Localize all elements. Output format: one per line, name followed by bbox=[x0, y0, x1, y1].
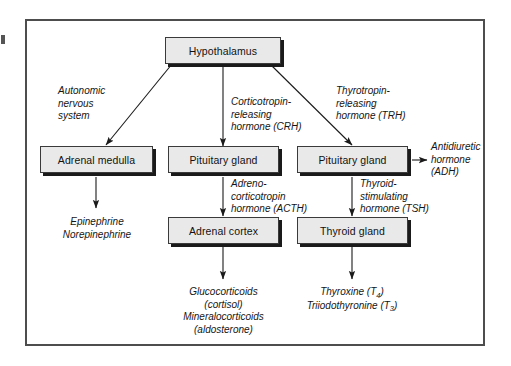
node-thyroid-gland-label: Thyroid gland bbox=[320, 225, 385, 237]
node-pituitary-gland-anterior[interactable]: Pituitary gland bbox=[168, 146, 279, 173]
node-adrenal-cortex-label: Adrenal cortex bbox=[189, 225, 258, 237]
node-thyroid-gland[interactable]: Thyroid gland bbox=[297, 217, 408, 244]
output-cortisol: (cortisol) bbox=[158, 299, 289, 312]
edge-label-crh-line1: Corticotropin- bbox=[231, 96, 302, 109]
edge-label-autonomic-line2: nervous bbox=[58, 98, 105, 111]
edge-label-tsh-line3: hormone (TSH) bbox=[360, 203, 429, 216]
node-hypothalamus[interactable]: Hypothalamus bbox=[165, 37, 281, 64]
edge-label-adh-line3: (ADH) bbox=[431, 166, 480, 179]
output-thyroxine-name: Thyroxine (T bbox=[320, 286, 376, 297]
output-triiodothyronine-tail: ) bbox=[394, 300, 397, 311]
node-adrenal-cortex[interactable]: Adrenal cortex bbox=[168, 217, 279, 244]
edge-label-acth-line2: corticotropin bbox=[231, 191, 307, 204]
output-triiodothyronine-sub: 3 bbox=[390, 304, 394, 313]
edge-label-autonomic-line1: Autonomic bbox=[58, 85, 105, 98]
output-aldosterone: (aldosterone) bbox=[158, 324, 289, 337]
edge-label-trh-line2: releasing bbox=[336, 98, 405, 111]
page-edge-artifact bbox=[1, 35, 5, 44]
edge-label-adh: Antidiuretic hormone (ADH) bbox=[431, 141, 480, 179]
edge-label-tsh: Thyroid- stimulating hormone (TSH) bbox=[360, 178, 429, 216]
edge-label-tsh-line2: stimulating bbox=[360, 191, 429, 204]
edge-label-trh: Thyrotropin- releasing hormone (TRH) bbox=[336, 85, 405, 123]
output-thyroxine-tail: ) bbox=[380, 286, 383, 297]
output-thyroxine-sub: 4 bbox=[376, 291, 380, 300]
output-triiodothyronine-name: Triiodothyronine (T bbox=[307, 300, 390, 311]
node-adrenal-medulla[interactable]: Adrenal medulla bbox=[40, 146, 153, 173]
node-pituitary-gland-posterior[interactable]: Pituitary gland bbox=[297, 146, 408, 173]
edge-label-crh: Corticotropin- releasing hormone (CRH) bbox=[231, 96, 302, 134]
edge-label-crh-line3: hormone (CRH) bbox=[231, 121, 302, 134]
output-thyroid-gland-products: Thyroxine (T4) Triiodothyronine (T3) bbox=[285, 286, 419, 313]
edge-label-acth: Adreno- corticotropin hormone (ACTH) bbox=[231, 178, 307, 216]
edge-label-trh-line3: hormone (TRH) bbox=[336, 110, 405, 123]
edge-label-acth-line3: hormone (ACTH) bbox=[231, 203, 307, 216]
output-norepinephrine: Norepinephrine bbox=[33, 229, 161, 242]
edge-label-adh-line1: Antidiuretic bbox=[431, 141, 480, 154]
edge-label-crh-line2: releasing bbox=[231, 109, 302, 122]
output-epinephrine: Epinephrine bbox=[33, 216, 161, 229]
edge-label-autonomic-line3: system bbox=[58, 110, 105, 123]
node-pituitary-gland-anterior-label: Pituitary gland bbox=[189, 154, 257, 166]
output-adrenal-cortex-products: Glucocorticoids (cortisol) Mineralocorti… bbox=[158, 286, 289, 336]
edge-label-autonomic-nervous-system: Autonomic nervous system bbox=[58, 85, 105, 123]
node-hypothalamus-label: Hypothalamus bbox=[189, 45, 257, 57]
node-adrenal-medulla-label: Adrenal medulla bbox=[58, 154, 135, 166]
output-thyroxine: Thyroxine (T4) bbox=[285, 286, 419, 300]
edge-label-trh-line1: Thyrotropin- bbox=[336, 85, 405, 98]
node-pituitary-gland-posterior-label: Pituitary gland bbox=[318, 154, 386, 166]
output-adrenal-medulla-products: Epinephrine Norepinephrine bbox=[33, 216, 161, 241]
edge-label-acth-line1: Adreno- bbox=[231, 178, 307, 191]
diagram-page: Hypothalamus Adrenal medulla Pituitary g… bbox=[0, 0, 511, 366]
output-glucocorticoids: Glucocorticoids bbox=[158, 286, 289, 299]
output-mineralocorticoids: Mineralocorticoids bbox=[158, 311, 289, 324]
edge-label-tsh-line1: Thyroid- bbox=[360, 178, 429, 191]
edge-label-adh-line2: hormone bbox=[431, 154, 480, 167]
output-triiodothyronine: Triiodothyronine (T3) bbox=[285, 300, 419, 314]
